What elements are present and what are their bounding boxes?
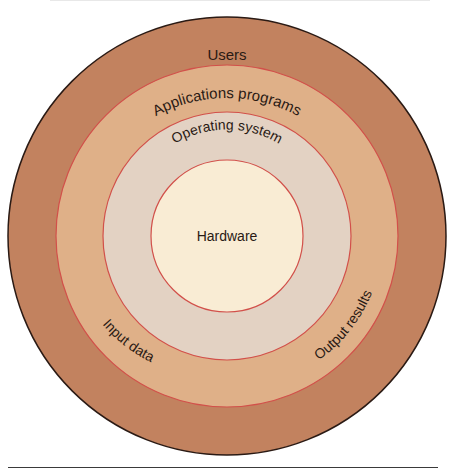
layered-system-diagram: Users Applications programs Operating sy… <box>0 0 458 472</box>
users-label: Users <box>207 46 246 63</box>
bottom-rule <box>8 467 438 468</box>
hardware-label: Hardware <box>197 228 258 244</box>
